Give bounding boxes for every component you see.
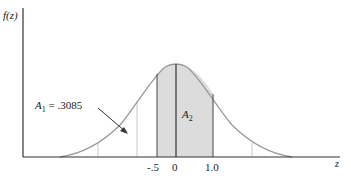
area-a2-subscript: 2 (189, 114, 193, 123)
area-a1-symbol: A (35, 99, 42, 111)
area-a2-symbol: A (182, 108, 189, 120)
area-a1-label: A1 = .3085 (35, 99, 82, 114)
tick-label-neg05: -.5 (147, 161, 159, 173)
normal-curve-diagram (0, 0, 351, 180)
x-axis-label: z (335, 158, 339, 169)
tick-label-1: 1.0 (205, 161, 219, 173)
area-a1-value: = .3085 (46, 99, 82, 111)
tick-label-0: 0 (172, 161, 178, 173)
area-a2-label: A2 (182, 108, 193, 123)
y-axis-label: f(z) (3, 9, 18, 21)
arrow-a1 (98, 108, 126, 132)
